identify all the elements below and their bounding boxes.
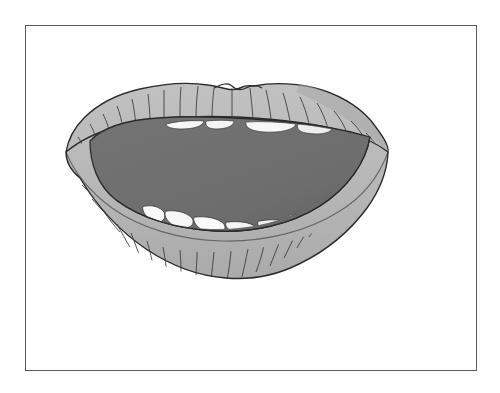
mouth-illustration [0,0,500,393]
illustration-canvas: Open mouth illustration [0,0,500,393]
